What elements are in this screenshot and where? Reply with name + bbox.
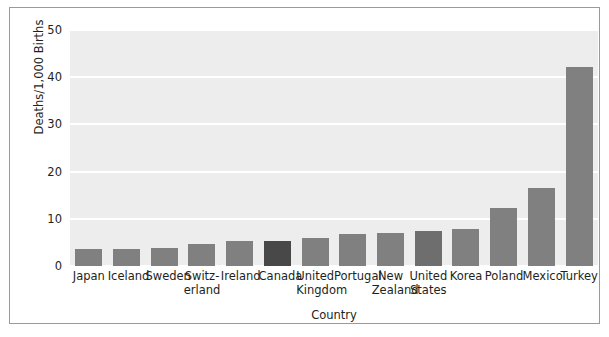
bar-slot — [409, 30, 447, 266]
bar[interactable] — [415, 231, 442, 266]
bar[interactable] — [264, 241, 291, 266]
x-tick-label-line: Iceland — [108, 270, 146, 284]
bar[interactable] — [452, 229, 479, 266]
bar-slot — [485, 30, 523, 266]
x-tick-label: Mexico — [523, 270, 561, 284]
bar-slot — [70, 30, 108, 266]
x-tick-label-line: Korea — [447, 270, 485, 284]
x-tick-label-line: Japan — [70, 270, 108, 284]
x-tick-label: Ireland — [221, 270, 259, 284]
bar-slot — [145, 30, 183, 266]
bar[interactable] — [528, 188, 555, 266]
x-tick-label-line: Turkey — [560, 270, 598, 284]
bar-slot — [296, 30, 334, 266]
x-tick-label-line: United — [296, 270, 334, 284]
bar[interactable] — [377, 233, 404, 267]
x-tick-label-line: erland — [183, 284, 221, 298]
x-tick-label-line: Mexico — [523, 270, 561, 284]
bar[interactable] — [113, 249, 140, 266]
y-tick-label: 0 — [55, 259, 62, 273]
bar-chart-figure: Deaths/1,000 Births 01020304050 JapanIce… — [0, 0, 609, 337]
plot-area — [70, 30, 598, 266]
bar-slot — [259, 30, 297, 266]
x-tick-label-line: States — [409, 284, 447, 298]
x-tick-label-line: Canada — [259, 270, 297, 284]
bar[interactable] — [566, 67, 593, 266]
bar[interactable] — [302, 238, 329, 266]
x-tick-label-line: Ireland — [221, 270, 259, 284]
y-axis-ticks: 01020304050 — [10, 30, 66, 266]
x-tick-label: Switz-erland — [183, 270, 221, 297]
x-tick-label: Sweden — [145, 270, 183, 284]
x-tick-label: Korea — [447, 270, 485, 284]
x-tick-label: UnitedStates — [409, 270, 447, 297]
bar[interactable] — [490, 208, 517, 266]
x-tick-label-line: New — [372, 270, 410, 284]
x-tick-label-line: Sweden — [145, 270, 183, 284]
bar-slot — [447, 30, 485, 266]
figure-frame: Deaths/1,000 Births 01020304050 JapanIce… — [9, 7, 600, 324]
x-tick-label: Turkey — [560, 270, 598, 284]
x-tick-label-line: Switz- — [183, 270, 221, 284]
x-tick-label: Canada — [259, 270, 297, 284]
bar[interactable] — [188, 244, 215, 266]
bar-slot — [183, 30, 221, 266]
x-tick-label: Portugal — [334, 270, 372, 284]
x-tick-label-line: Zealand — [372, 284, 410, 298]
x-tick-label-line: Kingdom — [296, 284, 334, 298]
x-tick-label: Iceland — [108, 270, 146, 284]
bar[interactable] — [75, 249, 102, 266]
bar-slot — [221, 30, 259, 266]
x-tick-label: UnitedKingdom — [296, 270, 334, 297]
y-tick-label: 40 — [47, 70, 62, 84]
x-tick-label: NewZealand — [372, 270, 410, 297]
bar-slot — [560, 30, 598, 266]
x-tick-label-line: Poland — [485, 270, 523, 284]
y-tick-label: 30 — [47, 117, 62, 131]
y-tick-label: 10 — [47, 212, 62, 226]
x-tick-label: Poland — [485, 270, 523, 284]
bar-slot — [334, 30, 372, 266]
x-tick-label: Japan — [70, 270, 108, 284]
bar-slot — [108, 30, 146, 266]
x-tick-label-line: Portugal — [334, 270, 372, 284]
y-tick-label: 50 — [47, 23, 62, 37]
bars-container — [70, 30, 598, 266]
bar-slot — [372, 30, 410, 266]
x-tick-label-line: United — [409, 270, 447, 284]
x-axis-ticks: JapanIcelandSwedenSwitz-erlandIrelandCan… — [70, 270, 598, 304]
bar[interactable] — [151, 248, 178, 266]
bar-slot — [523, 30, 561, 266]
bar[interactable] — [339, 234, 366, 266]
bar[interactable] — [226, 241, 253, 266]
y-tick-label: 20 — [47, 165, 62, 179]
x-axis-title: Country — [70, 308, 598, 322]
